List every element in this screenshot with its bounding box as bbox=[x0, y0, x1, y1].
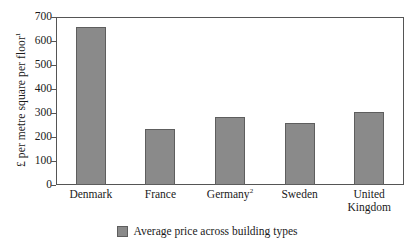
y-axis-tick-mark bbox=[51, 185, 56, 186]
legend-swatch-icon bbox=[117, 226, 128, 237]
legend-label: Average price across building types bbox=[134, 226, 298, 238]
bar bbox=[285, 123, 315, 185]
chart-legend: Average price across building types bbox=[0, 226, 414, 238]
x-axis-category-label: Denmark bbox=[56, 188, 126, 201]
y-axis-tick-label: 300 bbox=[22, 107, 52, 119]
y-axis-tick-labels: 0100200300400500600700 bbox=[22, 0, 52, 246]
x-axis-category-label: UnitedKingdom bbox=[334, 188, 404, 213]
y-axis-tick-label: 200 bbox=[22, 131, 52, 143]
y-axis-tick-label: 600 bbox=[22, 35, 52, 47]
x-axis-category-labels: DenmarkFranceGermany2SwedenUnitedKingdom bbox=[56, 188, 404, 224]
x-axis-category-label: Germany2 bbox=[195, 188, 265, 201]
bar bbox=[354, 112, 384, 185]
x-axis-category-label: France bbox=[126, 188, 196, 201]
y-axis-tick-label: 0 bbox=[22, 179, 52, 191]
bar-chart: £ per metre square per floor1 0100200300… bbox=[0, 0, 414, 246]
bar bbox=[76, 27, 106, 185]
bar bbox=[215, 117, 245, 185]
y-axis-tick-label: 400 bbox=[22, 83, 52, 95]
x-axis-category-label: Sweden bbox=[265, 188, 335, 201]
y-axis-tick-label: 100 bbox=[22, 155, 52, 167]
y-axis-tick-label: 500 bbox=[22, 59, 52, 71]
bar bbox=[145, 129, 175, 185]
bars-layer bbox=[56, 17, 404, 185]
y-axis-tick-label: 700 bbox=[22, 11, 52, 23]
x-axis-label-footnote: 2 bbox=[250, 187, 254, 195]
